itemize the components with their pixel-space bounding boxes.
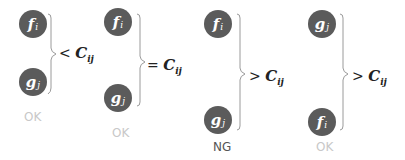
node-subscript: j xyxy=(122,97,125,106)
brace-icon xyxy=(47,14,59,94)
status-label: OK xyxy=(112,126,129,140)
node-letter: g xyxy=(111,91,122,106)
node-subscript: j xyxy=(326,23,329,32)
relation-label: = Cij xyxy=(147,56,182,76)
constant-letter: C xyxy=(163,56,175,74)
node-top: fi xyxy=(204,10,232,38)
relation-operator: > xyxy=(352,68,364,84)
node-subscript: j xyxy=(37,81,40,90)
node-bottom: gj xyxy=(204,106,232,134)
constant-subscript: ij xyxy=(380,77,387,87)
constant-subscript: ij xyxy=(87,54,94,64)
relation-operator: = xyxy=(147,57,159,73)
constant-letter: C xyxy=(368,67,380,85)
status-label: OK xyxy=(316,140,333,154)
brace-icon xyxy=(236,14,248,130)
node-subscript: i xyxy=(324,121,327,130)
brace-icon xyxy=(339,14,351,130)
relation-operator: < xyxy=(59,45,71,61)
node-letter: f xyxy=(317,115,323,130)
node-letter: f xyxy=(28,17,34,32)
status-label: NG xyxy=(213,140,231,154)
node-letter: g xyxy=(26,75,37,90)
node-bottom: gj xyxy=(19,68,47,96)
constant-subscript: ij xyxy=(277,77,284,87)
node-subscript: i xyxy=(120,21,123,30)
node-top: fi xyxy=(19,10,47,38)
constant-letter: C xyxy=(75,44,87,62)
relation-label: > Cij xyxy=(352,67,387,87)
node-letter: g xyxy=(211,113,222,128)
node-subscript: j xyxy=(222,119,225,128)
node-subscript: i xyxy=(220,23,223,32)
relation-label: > Cij xyxy=(249,67,284,87)
node-letter: g xyxy=(315,17,326,32)
constant-letter: C xyxy=(265,67,277,85)
node-subscript: i xyxy=(35,23,38,32)
node-letter: f xyxy=(113,15,119,30)
node-letter: f xyxy=(213,17,219,32)
relation-operator: > xyxy=(249,68,261,84)
constant-subscript: ij xyxy=(175,66,182,76)
node-top: gj xyxy=(308,10,336,38)
status-label: OK xyxy=(24,110,41,124)
node-bottom: fi xyxy=(308,108,336,136)
relation-label: < Cij xyxy=(59,44,94,64)
node-bottom: gj xyxy=(104,84,132,112)
node-top: fi xyxy=(104,8,132,36)
